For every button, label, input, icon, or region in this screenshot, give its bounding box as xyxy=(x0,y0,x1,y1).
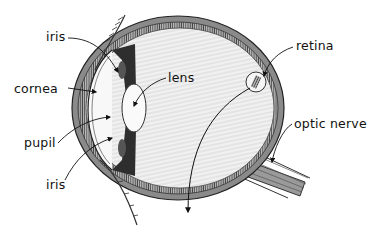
label-retina: retina xyxy=(296,38,334,53)
label-cornea: cornea xyxy=(14,81,58,96)
label-lens: lens xyxy=(168,70,194,85)
label-iris-bottom: iris xyxy=(46,177,65,192)
eye-diagram-svg: iris cornea pupil iris lens retina optic… xyxy=(0,0,384,238)
label-iris-top: iris xyxy=(46,29,65,44)
label-optic-nerve: optic nerve xyxy=(294,116,367,131)
lens xyxy=(122,84,146,132)
label-pupil: pupil xyxy=(24,135,56,150)
eye-diagram: iris cornea pupil iris lens retina optic… xyxy=(0,0,384,238)
